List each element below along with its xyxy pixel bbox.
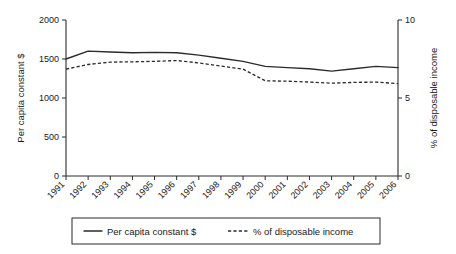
x-axis-tick-labels: 1991199219931994199519961997199819992000… <box>45 179 398 200</box>
x-tick-label: 1994 <box>112 179 133 200</box>
x-tick-label: 2001 <box>267 179 288 200</box>
left-tick-label: 1000 <box>39 93 59 103</box>
line-chart: 0500100015002000 0510 199119921993199419… <box>0 0 456 254</box>
x-axis-ticks <box>66 176 398 180</box>
right-tick-label: 0 <box>405 171 410 181</box>
x-tick-label: 2000 <box>244 179 265 200</box>
left-tick-label: 500 <box>44 132 59 142</box>
left-axis-ticks <box>62 20 66 176</box>
left-axis-title: Per capita constant $ <box>15 53 26 143</box>
left-axis-tick-labels: 0500100015002000 <box>39 15 59 181</box>
x-tick-label: 1999 <box>222 179 243 200</box>
chart-container: 0500100015002000 0510 199119921993199419… <box>0 0 456 254</box>
x-tick-label: 1996 <box>156 179 177 200</box>
x-tick-label: 2006 <box>377 179 398 200</box>
x-tick-label: 1991 <box>45 179 66 200</box>
right-axis-ticks <box>398 20 402 176</box>
left-tick-label: 2000 <box>39 15 59 25</box>
x-tick-label: 1992 <box>67 179 88 200</box>
x-tick-label: 1995 <box>134 179 155 200</box>
x-tick-label: 2002 <box>289 179 310 200</box>
chart-legend: Per capita constant $ % of disposable in… <box>72 218 380 244</box>
left-tick-label: 1500 <box>39 54 59 64</box>
legend-label-per-capita-constant: Per capita constant $ <box>107 226 197 237</box>
x-tick-label: 1993 <box>89 179 110 200</box>
right-tick-label: 5 <box>405 93 410 103</box>
x-tick-label: 1997 <box>178 179 199 200</box>
series-percent-disposable-income-line <box>66 61 398 84</box>
x-tick-label: 2003 <box>311 179 332 200</box>
x-tick-label: 2005 <box>355 179 376 200</box>
series-per-capita-constant-line <box>66 51 398 71</box>
x-tick-label: 1998 <box>200 179 221 200</box>
legend-label-percent-disposable-income: % of disposable income <box>253 226 353 237</box>
right-tick-label: 10 <box>405 15 415 25</box>
right-axis-title: % of disposable income <box>428 48 439 148</box>
right-axis-tick-labels: 0510 <box>405 15 415 181</box>
x-tick-label: 2004 <box>333 179 354 200</box>
